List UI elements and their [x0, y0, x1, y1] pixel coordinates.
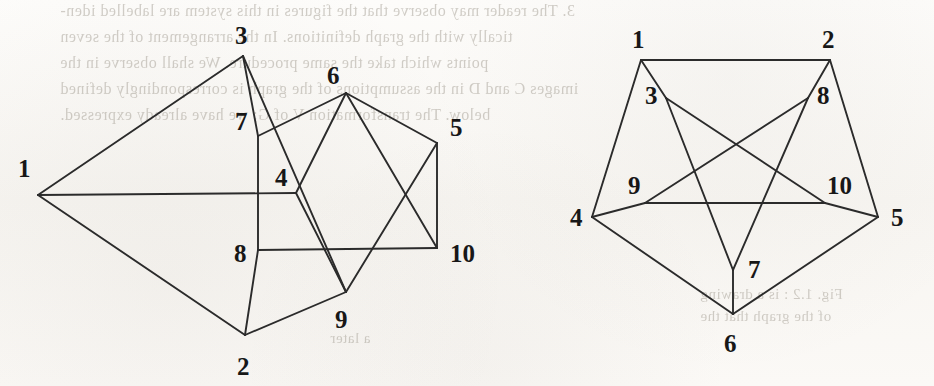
vertex-label-7: 7 — [748, 256, 761, 283]
vertex-label-7: 7 — [235, 108, 248, 135]
graph-edge-2-9 — [245, 292, 346, 335]
graph-edge-6-10 — [346, 93, 437, 248]
graph-edge-5-9 — [346, 143, 437, 292]
vertex-label-2: 2 — [822, 26, 835, 53]
vertex-label-4: 4 — [570, 204, 583, 231]
graph-edge-8-2 — [245, 250, 258, 335]
vertex-label-10: 10 — [827, 172, 852, 199]
vertex-label-6: 6 — [724, 330, 737, 357]
vertex-label-8: 8 — [817, 82, 830, 109]
graph-edge-4-9 — [592, 203, 645, 217]
graph-edge-4-9 — [296, 193, 346, 292]
graph-edge-8-9 — [645, 98, 808, 203]
graph-edge-7-6 — [258, 93, 346, 136]
vertex-label-3: 3 — [645, 82, 658, 109]
graph-edge-1-3 — [38, 56, 243, 195]
vertex-label-6: 6 — [327, 62, 340, 89]
edges-layer — [38, 56, 878, 335]
right-drawing-labels: 12345678910 — [570, 26, 904, 357]
vertex-label-1: 1 — [18, 155, 31, 182]
graph-edge-5-10 — [825, 203, 878, 217]
vertex-label-10: 10 — [450, 240, 475, 267]
graph-edge-4-6 — [296, 93, 346, 193]
vertex-label-5: 5 — [891, 204, 904, 231]
vertex-label-1: 1 — [632, 26, 645, 53]
vertex-labels-layer: 1234567891012345678910 — [18, 22, 904, 380]
graph-edge-1-2 — [38, 195, 245, 335]
vertex-label-8: 8 — [234, 240, 247, 267]
graph-edge-8-10 — [258, 248, 437, 250]
graph-edge-4-6 — [592, 217, 733, 314]
vertex-label-9: 9 — [628, 172, 641, 199]
graph-drawings-canvas: 1234567891012345678910 — [0, 0, 934, 386]
left-drawing-edges — [38, 56, 437, 335]
vertex-label-9: 9 — [335, 306, 348, 333]
vertex-label-4: 4 — [275, 164, 288, 191]
vertex-label-5: 5 — [450, 114, 463, 141]
vertex-label-2: 2 — [237, 353, 250, 380]
figure-page: 3. The reader may observe that the figur… — [0, 0, 934, 386]
vertex-label-3: 3 — [235, 22, 248, 49]
